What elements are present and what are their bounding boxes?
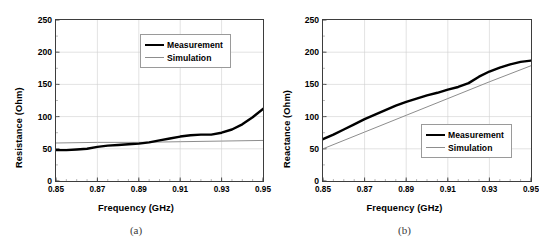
y-tick-label: 200: [305, 47, 319, 57]
x-tick-label: 0.89: [398, 185, 414, 194]
subfigure-caption-b: (b): [270, 224, 539, 236]
figure-panel-b: Reactance (Ohm) Frequency (GHz) 05010015…: [270, 10, 539, 249]
legend-a: Measurement Simulation: [140, 34, 231, 68]
x-tick-label: 0.87: [89, 185, 105, 194]
running-head: 6 CHAPTER 1. DESIGN AND ANALYSIS OF PLAN…: [0, 0, 539, 5]
x-axis-label-b: Frequency (GHz): [270, 203, 539, 213]
legend-line-simulation-icon: [145, 57, 164, 58]
legend-b: Measurement Simulation: [421, 124, 512, 158]
x-tick-label: 0.91: [440, 185, 456, 194]
legend-line-simulation-icon: [426, 147, 445, 148]
y-tick-label: 250: [305, 15, 319, 25]
figure-two-panel: Resistance (Ohm) Frequency (GHz) 0501001…: [0, 10, 539, 249]
legend-line-measurement-icon: [145, 44, 164, 46]
plot-area-b: 050100150200250 0.850.870.890.910.930.95…: [322, 19, 532, 182]
x-tick-label: 0.85: [48, 185, 64, 194]
plot-area-a: 050100150200250 0.850.870.890.910.930.95…: [55, 19, 264, 182]
x-tick-label: 0.87: [357, 185, 373, 194]
y-tick-label: 250: [38, 15, 52, 25]
series-measurement: [56, 109, 263, 150]
legend-entry-simulation-a: Simulation: [145, 51, 223, 64]
y-axis-label-b: Reactance (Ohm): [282, 90, 292, 168]
x-tick-label: 0.93: [214, 185, 230, 194]
x-tick-label: 0.93: [481, 185, 497, 194]
x-tick-label: 0.91: [172, 185, 188, 194]
legend-entry-measurement-b: Measurement: [426, 128, 504, 141]
running-head-title: CHAPTER 1. DESIGN AND ANALYSIS OF PLANAR…: [18, 0, 271, 2]
page-folio: 6: [0, 0, 4, 2]
legend-label-measurement-b: Measurement: [448, 130, 504, 140]
y-tick-label: 150: [305, 79, 319, 89]
y-axis-label-a: Resistance (Ohm): [14, 87, 24, 168]
x-tick-label: 0.95: [523, 185, 539, 194]
figure-panel-a: Resistance (Ohm) Frequency (GHz) 0501001…: [2, 10, 270, 249]
legend-label-simulation-b: Simulation: [448, 143, 492, 153]
y-tick-label: 100: [305, 112, 319, 122]
y-tick-label: 150: [38, 79, 52, 89]
y-tick-label: 50: [42, 144, 52, 154]
legend-line-measurement-icon: [426, 134, 445, 136]
legend-label-measurement-a: Measurement: [167, 40, 223, 50]
y-tick-label: 200: [38, 47, 52, 57]
x-tick-label: 0.89: [131, 185, 147, 194]
legend-entry-measurement-a: Measurement: [145, 38, 223, 51]
x-tick-label: 0.85: [315, 185, 331, 194]
y-tick-label: 100: [38, 112, 52, 122]
x-tick-label: 0.95: [255, 185, 271, 194]
legend-entry-simulation-b: Simulation: [426, 141, 504, 154]
y-tick-label: 50: [309, 144, 319, 154]
subfigure-caption-a: (a): [2, 224, 270, 236]
x-axis-label-a: Frequency (GHz): [2, 203, 270, 213]
legend-label-simulation-a: Simulation: [167, 53, 211, 63]
